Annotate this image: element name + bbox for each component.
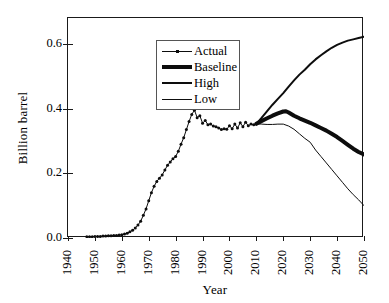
y-axis-tick-label: 0.0: [34, 231, 62, 243]
y-axis-tick-label: 0.6: [34, 37, 62, 49]
legend-line-sample-low: [161, 92, 193, 106]
legend-label-actual: Actual: [193, 44, 227, 58]
x-axis-tick-label: 1980: [168, 243, 181, 283]
legend-line-sample-baseline: [161, 60, 193, 74]
series-line-low: [256, 124, 364, 206]
x-axis-title: Year: [67, 282, 363, 297]
x-axis-tick-labels: 1940195019601970198019902000201020202030…: [67, 241, 363, 281]
series-line-baseline: [256, 111, 364, 154]
x-axis-tick-label: 2050: [357, 243, 370, 283]
x-axis-tick-label: 2020: [276, 243, 289, 283]
legend-item-baseline[interactable]: Baseline: [157, 59, 239, 75]
x-axis-tick-label: 2040: [330, 243, 343, 283]
x-axis-tick-label: 2000: [222, 243, 235, 283]
x-axis-tick-label: 1990: [195, 243, 208, 283]
legend: Actual Baseline High Low: [156, 40, 240, 110]
x-axis-tick-label: 1970: [141, 243, 154, 283]
legend-label-high: High: [193, 76, 219, 90]
plot-area: Actual Baseline High Low: [67, 17, 363, 237]
x-axis-tick-label: 2010: [249, 243, 262, 283]
y-axis-tick-labels: 0.00.20.40.6: [30, 0, 62, 303]
series-line-high: [256, 37, 364, 124]
legend-label-baseline: Baseline: [193, 60, 237, 74]
x-axis-tick: [364, 236, 365, 241]
legend-line-sample-high: [161, 76, 193, 90]
legend-label-low: Low: [193, 92, 217, 106]
series-markers-actual: [85, 109, 258, 238]
legend-item-actual[interactable]: Actual: [157, 43, 239, 59]
legend-item-high[interactable]: High: [157, 75, 239, 91]
y-axis-tick-label: 0.2: [34, 166, 62, 178]
x-axis-tick-label: 1960: [114, 243, 127, 283]
x-axis-tick-label: 1940: [61, 243, 74, 283]
x-axis-tick-label: 1950: [87, 243, 100, 283]
x-axis-tick-label: 2030: [303, 243, 316, 283]
legend-item-low[interactable]: Low: [157, 91, 239, 107]
y-axis-tick-inner: [68, 173, 73, 174]
legend-line-sample-actual: [161, 44, 193, 58]
chart-container: Billion barrel 0.00.20.40.6 Actual Basel…: [0, 0, 389, 303]
y-axis-tick-label: 0.4: [34, 102, 62, 114]
y-axis-tick-inner: [68, 109, 73, 110]
y-axis-tick-inner: [68, 44, 73, 45]
